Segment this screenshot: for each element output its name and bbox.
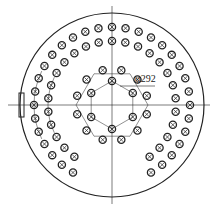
drawing-canvas xyxy=(0,0,217,209)
dimension-label: φ292 xyxy=(135,73,156,84)
tube-sheet-drawing: φ292 xyxy=(0,0,217,209)
